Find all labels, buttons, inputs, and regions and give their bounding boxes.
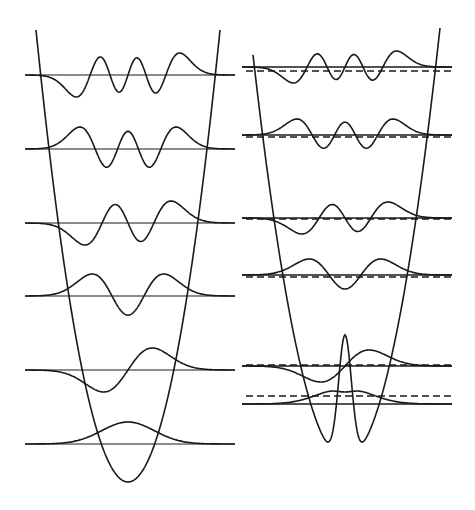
wavefunction-curve [242, 119, 452, 148]
wavefunction-curve [242, 391, 452, 404]
double-well-panel [242, 28, 452, 442]
double-well-potential [253, 28, 440, 442]
wavefunction-diagram [0, 0, 475, 510]
harmonic-oscillator-panel [25, 30, 235, 482]
potential-parabola [36, 30, 220, 482]
wavefunction-curve [25, 422, 235, 444]
wavefunction-curve [242, 259, 452, 289]
wavefunction-curve [25, 274, 235, 315]
wavefunction-curve [25, 127, 235, 167]
